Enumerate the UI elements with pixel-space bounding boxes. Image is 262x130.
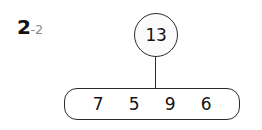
addend-value-3: 9	[152, 96, 188, 113]
addend-value-2: 5	[116, 96, 152, 113]
problem-number-label: 2 -2	[17, 17, 43, 37]
number-bond-addend-box: 7 5 9 6	[64, 88, 240, 120]
number-bond-connector-line	[155, 57, 156, 89]
problem-number-main: 2	[17, 17, 30, 37]
number-bond-total-circle: 13	[134, 13, 178, 57]
worksheet-canvas: 2 -2 13 7 5 9 6	[0, 0, 262, 130]
addend-value-1: 7	[80, 96, 116, 113]
number-bond-total-value: 13	[145, 27, 166, 44]
problem-number-suffix: -2	[30, 23, 43, 36]
addend-value-4: 6	[188, 96, 224, 113]
